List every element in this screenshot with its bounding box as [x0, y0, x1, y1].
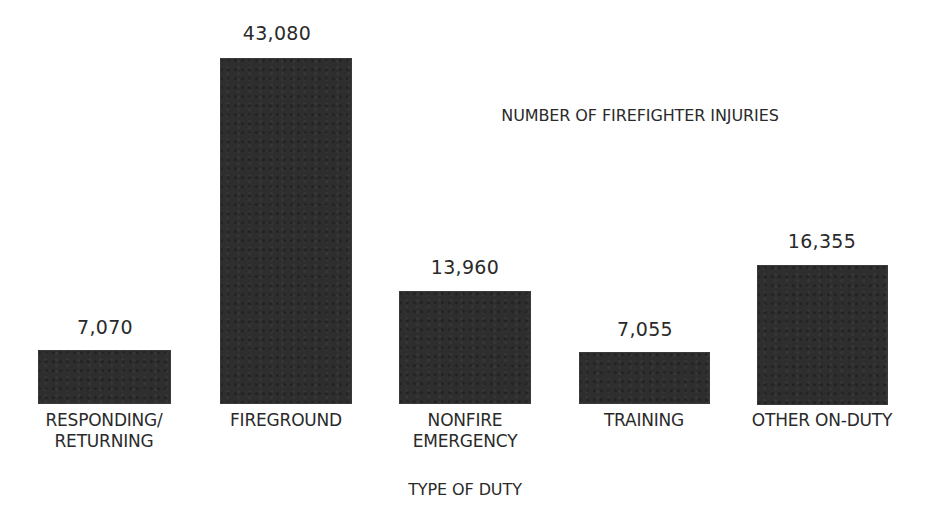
category-label: OTHER ON-DUTY — [732, 410, 912, 431]
bar-value-label: 13,960 — [385, 256, 545, 278]
category-label: TRAINING — [554, 410, 734, 431]
category-label: NONFIRE EMERGENCY — [375, 410, 555, 452]
bar-value-label: 7,070 — [25, 316, 185, 338]
bar-chart: NUMBER OF FIREFIGHTER INJURIES 7,070 RES… — [0, 0, 926, 521]
bar-other-on-duty — [757, 265, 888, 405]
bar-value-label: 16,355 — [742, 230, 902, 252]
bar-responding-returning — [38, 350, 171, 404]
bar-nonfire-emergency — [399, 291, 531, 404]
bar-value-label: 7,055 — [565, 318, 725, 340]
x-axis-label: TYPE OF DUTY — [375, 480, 555, 499]
bar-training — [579, 352, 710, 404]
category-label: FIREGROUND — [196, 410, 376, 431]
chart-title: NUMBER OF FIREFIGHTER INJURIES — [455, 106, 825, 125]
bar-value-label: 43,080 — [197, 22, 357, 44]
category-label: RESPONDING/ RETURNING — [14, 410, 194, 452]
bar-fireground — [220, 58, 352, 404]
